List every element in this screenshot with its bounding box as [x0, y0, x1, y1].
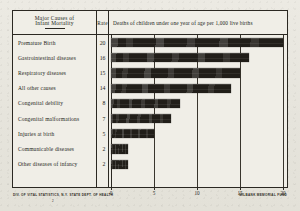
rate-value: 14 [97, 85, 108, 91]
table-row: Respiratory diseases [13, 65, 96, 80]
axis-tick-label: 5 [153, 190, 156, 196]
cause-label: Congenital malformations [13, 116, 79, 122]
header-underline [45, 28, 65, 29]
table-row: Injuries at birth [13, 126, 96, 141]
rate-value: 16 [97, 55, 108, 61]
bar-plot-area: 05101520 [109, 35, 287, 187]
table-row: Gastrointestinal diseases [13, 50, 96, 65]
header-rate-column: Rate [96, 11, 109, 34]
cause-label: Other diseases of infancy [13, 161, 78, 167]
page-mark: 2 [52, 199, 54, 203]
cause-label: Congenital debility [13, 100, 63, 106]
bar [111, 38, 283, 47]
bar [111, 68, 240, 77]
rate-cell: 2 [97, 141, 108, 156]
rate-cell: 20 [97, 35, 108, 50]
source-credit-left: DIV. OF VITAL STATISTICS, N.Y. STATE DEP… [13, 193, 113, 197]
rate-value: 15 [97, 70, 108, 76]
rate-value: 5 [97, 131, 108, 137]
table-row: Congenital debility [13, 96, 96, 111]
rate-value: 8 [97, 100, 108, 106]
rate-cell: 5 [97, 126, 108, 141]
rate-cell: 15 [97, 65, 108, 80]
rate-cell: 7 [97, 111, 108, 126]
bar [111, 129, 154, 138]
rate-value: 7 [97, 116, 108, 122]
table-row: Premature Birth [13, 35, 96, 50]
rate-cell: 2 [97, 157, 108, 172]
rate-cell: 8 [97, 96, 108, 111]
cause-label: Gastrointestinal diseases [13, 55, 76, 61]
cause-label: Premature Birth [13, 40, 56, 46]
bar [111, 160, 128, 169]
table-header: Major Causes of Infant Mortality Rate De… [13, 11, 287, 35]
cause-label-column: Premature BirthGastrointestinal diseases… [13, 35, 96, 187]
rate-value: 2 [97, 146, 108, 152]
table-row: Communicable diseases [13, 141, 96, 156]
header-cause-line2: Infant Mortality [35, 21, 74, 27]
cause-label: Communicable diseases [13, 146, 74, 152]
bar [111, 114, 171, 123]
rate-cell: 16 [97, 50, 108, 65]
axis-tick-label: 10 [194, 190, 199, 196]
rate-cell: 14 [97, 81, 108, 96]
rate-value: 20 [97, 40, 108, 46]
rate-value-column: 2016151487522 [96, 35, 109, 187]
axis-baseline [109, 187, 287, 188]
bar [111, 144, 128, 153]
cause-label: Respiratory diseases [13, 70, 66, 76]
rate-value: 2 [97, 161, 108, 167]
header-deaths-column: Deaths of children under one year of age… [109, 11, 287, 34]
chart-frame: Major Causes of Infant Mortality Rate De… [12, 10, 288, 188]
cause-label: All other causes [13, 85, 56, 91]
bar-series [109, 35, 287, 175]
table-row: Congenital malformations [13, 111, 96, 126]
bar [111, 53, 249, 62]
bar [111, 99, 180, 108]
table-row: Other diseases of infancy [13, 157, 96, 172]
cause-label: Injuries at birth [13, 131, 54, 137]
table-body: Premature BirthGastrointestinal diseases… [13, 35, 287, 187]
bar [111, 84, 231, 93]
header-cause-column: Major Causes of Infant Mortality [13, 11, 96, 34]
table-row: All other causes [13, 81, 96, 96]
source-credit-right: MILBANK MEMORIAL FUND [239, 193, 287, 197]
